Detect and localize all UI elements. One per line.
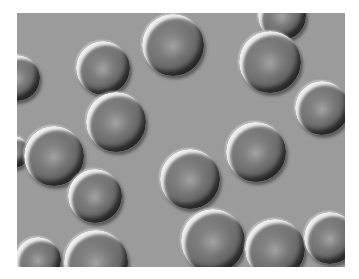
red-blood-cell (68, 169, 122, 223)
red-blood-cell (295, 81, 345, 135)
red-blood-cell (86, 92, 146, 152)
red-blood-cell (17, 237, 61, 267)
micrograph (17, 13, 345, 267)
red-blood-cell (17, 55, 40, 101)
red-blood-cell (160, 149, 220, 209)
red-blood-cell (239, 31, 301, 93)
red-blood-cell (64, 230, 128, 267)
red-blood-cell (226, 122, 286, 182)
red-blood-cell (142, 14, 204, 76)
red-blood-cell (76, 41, 130, 95)
red-blood-cell (245, 219, 305, 267)
red-blood-cell (304, 212, 345, 264)
red-blood-cell (181, 209, 245, 267)
